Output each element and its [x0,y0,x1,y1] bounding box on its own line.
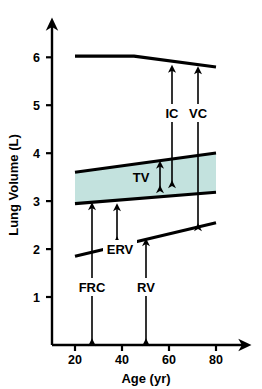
chart-canvas: 6 5 4 3 2 1 20 40 60 80 Age (yr) Lung Vo… [0,0,262,389]
y-tick-label-2: 2 [33,243,40,257]
frc-label-top: FRC [79,280,106,295]
lung-volume-chart: 6 5 4 3 2 1 20 40 60 80 Age (yr) Lung Vo… [0,0,262,389]
x-tick-label-80: 80 [209,353,223,367]
rv-label-top: RV [137,280,155,295]
erv-label-top: ERV [107,242,134,257]
y-tick-label-3: 3 [33,195,40,209]
ic-label-top: IC [166,106,180,121]
y-tick-label-1: 1 [33,291,40,305]
y-tick-label-4: 4 [33,147,40,161]
series-total-lung-capacity [75,56,216,67]
tv-label: TV [133,170,150,185]
x-tick-label-20: 20 [68,353,82,367]
x-tick-label-60: 60 [162,353,176,367]
y-tick-label-5: 5 [33,99,40,113]
x-tick-label-40: 40 [115,353,129,367]
x-axis-title: Age (yr) [121,371,170,386]
y-axis-title: Lung Volume (L) [6,134,21,236]
vc-label-top: VC [189,106,208,121]
y-tick-label-6: 6 [33,51,40,65]
